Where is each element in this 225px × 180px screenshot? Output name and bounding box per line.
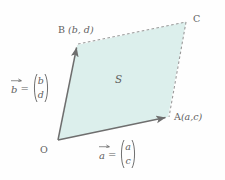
point-label-a: A(a,c): [174, 112, 202, 122]
point-b-name: B: [58, 24, 65, 35]
area-label: S: [115, 74, 122, 85]
point-a-name: A: [174, 111, 181, 122]
point-label-origin: O: [40, 145, 48, 155]
vector-b-column: b d: [32, 73, 50, 103]
parallelogram-figure: B (b, d) C A(a,c) O S b = b d: [0, 0, 225, 180]
vector-a-equals: =: [108, 148, 116, 160]
point-c-name: C: [193, 13, 200, 24]
vector-a-name: a: [99, 148, 105, 161]
vector-b-equals: =: [20, 82, 28, 94]
right-paren-icon: [44, 73, 50, 103]
point-label-c: C: [193, 14, 200, 24]
point-label-b: B (b, d): [58, 25, 94, 35]
vector-arrow-accent-icon: [99, 144, 110, 148]
point-b-coords: (b, d): [68, 24, 94, 35]
vector-a-expression: a = a c: [99, 139, 137, 169]
vector-arrow-accent-icon: [11, 78, 22, 82]
origin-name: O: [40, 144, 48, 155]
vector-b-name: b: [11, 82, 17, 95]
vector-a-column: a c: [119, 139, 137, 169]
vector-b-expression: b = b d: [11, 73, 50, 103]
right-paren-icon: [131, 139, 137, 169]
point-a-coords: (a,c): [181, 111, 202, 122]
